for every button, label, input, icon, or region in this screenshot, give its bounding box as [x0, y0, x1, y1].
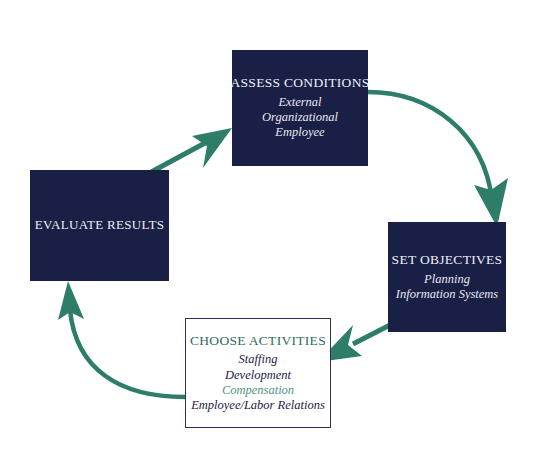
node-assess-conditions-items: External Organizational Employee — [262, 95, 338, 141]
node-evaluate-results[interactable]: EVALUATE RESULTS — [30, 170, 169, 281]
diagram-canvas: ASSESS CONDITIONS External Organizationa… — [0, 0, 552, 450]
list-item: Organizational — [262, 110, 338, 125]
arrow-activities-to-evaluate — [58, 281, 185, 397]
node-set-objectives-title: SET OBJECTIVES — [392, 252, 503, 268]
node-evaluate-results-title: EVALUATE RESULTS — [35, 218, 164, 233]
list-item: Planning — [396, 272, 498, 287]
list-item-highlighted: Compensation — [191, 383, 325, 398]
node-assess-conditions[interactable]: ASSESS CONDITIONS External Organizationa… — [232, 50, 368, 166]
node-choose-activities-items: Staffing Development Compensation Employ… — [191, 352, 325, 413]
list-item: External — [262, 95, 338, 110]
arrow-assess-to-objectives — [368, 92, 508, 227]
list-item: Development — [191, 368, 325, 383]
node-choose-activities[interactable]: CHOOSE ACTIVITIES Staffing Development C… — [185, 318, 331, 428]
node-set-objectives-items: Planning Information Systems — [396, 272, 498, 303]
list-item: Information Systems — [396, 287, 498, 302]
node-set-objectives[interactable]: SET OBJECTIVES Planning Information Syst… — [388, 222, 506, 332]
node-assess-conditions-title: ASSESS CONDITIONS — [231, 75, 370, 91]
list-item: Employee/Labor Relations — [191, 398, 325, 413]
list-item: Employee — [262, 125, 338, 140]
node-choose-activities-title: CHOOSE ACTIVITIES — [190, 333, 326, 349]
list-item: Staffing — [191, 352, 325, 367]
